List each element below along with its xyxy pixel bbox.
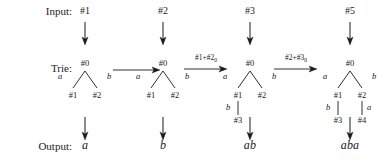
trie-left-grandchild-edge-col-3	[233, 101, 245, 116]
trie-root-col-3: #0	[235, 58, 265, 68]
trie-right-child-col-3: #2	[247, 90, 277, 100]
transition-label-3: #2+#30	[272, 53, 320, 62]
edge-letter-left-col-1: a	[53, 71, 67, 81]
input-value-col-2: #2	[133, 5, 193, 16]
edge-letter-left-col-2: a	[131, 71, 145, 81]
output-value-col-4: aba	[320, 138, 380, 153]
trie-root-col-1: #0	[70, 58, 100, 68]
trie-right-child-col-1: #2	[82, 90, 112, 100]
trie-root-col-4: #0	[335, 58, 365, 68]
trie-left-grandchild-edge-col-4	[333, 101, 345, 116]
edge-letter-left-grandchild-col-4: b	[322, 102, 334, 112]
output-value-col-1: a	[55, 138, 115, 153]
transition-arrow-3	[274, 63, 318, 75]
transition-label-3-main: #2+#3	[285, 53, 304, 62]
transition-label-2-sub: 0	[214, 57, 217, 63]
transition-label-2-main: #1+#2	[195, 53, 214, 62]
down-arrow-input-col-3	[243, 22, 257, 46]
trie-root-col-2: #0	[148, 58, 178, 68]
edge-letter-left-grandchild-col-3: b	[222, 102, 234, 112]
trie-construction-figure: Input: Trie: Output: #1 #0 a b #1 #2 a #…	[0, 0, 386, 163]
transition-label-2: #1+#20	[182, 53, 230, 62]
trie-right-child-col-2: #2	[160, 90, 190, 100]
input-value-col-4: #5	[320, 5, 380, 16]
output-value-col-2: b	[133, 138, 193, 153]
edge-letter-left-col-3: a	[218, 71, 232, 81]
down-arrow-input-col-4	[343, 22, 357, 46]
trie-right-child-col-4: #2	[347, 90, 377, 100]
edge-letter-left-col-4: a	[318, 71, 332, 81]
input-value-col-3: #3	[220, 5, 280, 16]
edge-letter-right-col-4: b	[367, 71, 381, 81]
down-arrow-input-col-1	[78, 22, 92, 46]
transition-label-3-sub: 0	[304, 57, 307, 63]
edge-letter-right-grandchild-col-4: a	[363, 102, 375, 112]
output-value-col-3: ab	[220, 138, 280, 153]
input-value-col-1: #1	[55, 5, 115, 16]
down-arrow-input-col-2	[156, 22, 170, 46]
